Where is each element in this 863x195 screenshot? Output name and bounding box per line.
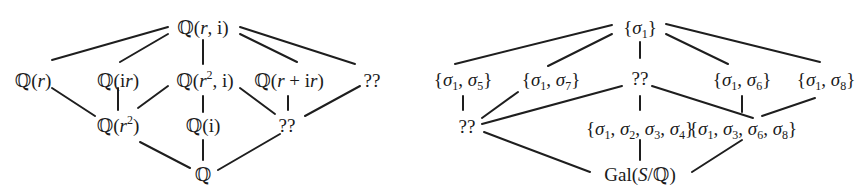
node-Q-i: ℚ(i)	[186, 116, 220, 135]
node-Q-r-i: ℚ(r, i)	[177, 18, 228, 37]
node-sigma1234: {σ1, σ2, σ3, σ4}	[586, 119, 694, 138]
node-unknown-right-2: ??	[459, 117, 476, 136]
node-Q-ir: ℚ(ir)	[97, 71, 139, 90]
right-edge	[666, 24, 820, 62]
node-Q: ℚ	[195, 165, 212, 184]
node-sigma1: {σ1}	[623, 18, 657, 37]
left-edge	[240, 88, 275, 114]
node-Q-r-plus-ir: ℚ(r + ir)	[254, 71, 324, 90]
node-sigma1-sigma8: {σ1, σ8}	[797, 70, 856, 89]
node-sigma1-sigma5: {σ1, σ5}	[434, 70, 493, 89]
left-edge	[140, 142, 190, 168]
right-edge	[484, 132, 590, 172]
node-sigma1368: {σ1, σ3, σ6, σ8}	[689, 119, 797, 138]
node-Q-r2-i: ℚ(r2, i)	[176, 71, 233, 90]
left-edge	[305, 86, 360, 116]
node-Q-r: ℚ(r)	[15, 71, 52, 90]
left-edge	[138, 86, 168, 108]
node-Q-r2: ℚ(r2)	[97, 116, 140, 135]
right-edge	[762, 98, 815, 116]
right-edge	[666, 34, 728, 64]
right-edge	[692, 140, 742, 172]
left-edge	[218, 134, 280, 170]
node-galois-group: Gal(S/ℚ)	[604, 165, 675, 184]
lattice-edges	[0, 0, 863, 195]
left-edge	[240, 34, 297, 62]
node-unknown-right-1: ??	[632, 69, 649, 88]
node-sigma1-sigma7: {σ1, σ7}	[522, 70, 581, 89]
right-edge	[482, 92, 518, 118]
node-unknown-left-1: ??	[364, 71, 381, 90]
right-edge	[455, 25, 612, 64]
left-edge	[52, 88, 95, 116]
right-edge	[652, 86, 753, 118]
node-sigma1-sigma6: {σ1, σ6}	[713, 70, 772, 89]
node-unknown-left-2: ??	[279, 116, 296, 135]
left-edge	[240, 27, 355, 64]
